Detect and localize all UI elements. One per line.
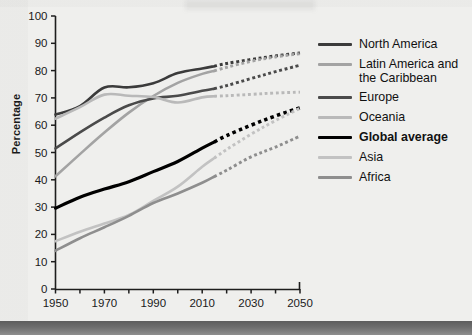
series-asia <box>56 108 301 241</box>
legend-swatch-line-icon <box>318 169 352 185</box>
legend-label: Oceania <box>359 109 405 124</box>
svg-text:100: 100 <box>28 10 47 22</box>
svg-text:2050: 2050 <box>287 297 313 309</box>
legend-swatch-line-icon <box>318 129 352 145</box>
svg-text:1990: 1990 <box>141 297 167 309</box>
legend-label: Asia <box>359 149 383 164</box>
legend-label: Latin America and the Caribbean <box>359 56 468 85</box>
svg-text:50: 50 <box>35 147 48 159</box>
svg-text:1950: 1950 <box>43 297 69 309</box>
svg-text:2030: 2030 <box>238 297 264 309</box>
legend-swatch-line-icon <box>318 149 352 165</box>
axis-lines <box>55 16 300 290</box>
svg-text:2010: 2010 <box>189 297 215 309</box>
legend-item[interactable]: Oceania <box>318 109 468 125</box>
legend-item[interactable]: Africa <box>318 169 468 185</box>
data-series-layer <box>56 53 301 251</box>
legend-item[interactable]: Asia <box>318 149 468 165</box>
legend-item[interactable]: North America <box>318 36 468 52</box>
svg-text:70: 70 <box>35 92 48 104</box>
legend-item[interactable]: Latin America and the Caribbean <box>318 56 468 85</box>
legend-label: Europe <box>359 89 399 104</box>
chart-figure: Percentage 0102030405060708090100 195019… <box>0 0 472 335</box>
page-edge-band <box>0 321 472 335</box>
legend-swatch-line-icon <box>318 109 352 125</box>
svg-text:60: 60 <box>35 119 48 131</box>
legend-swatch-line-icon <box>318 56 352 72</box>
legend-item[interactable]: Global average <box>318 129 468 145</box>
svg-text:30: 30 <box>35 201 48 213</box>
series-europe <box>56 65 301 148</box>
svg-text:40: 40 <box>35 174 48 186</box>
legend-label: Global average <box>359 129 448 144</box>
legend-swatch-line-icon <box>318 89 352 105</box>
svg-text:10: 10 <box>35 256 48 268</box>
legend-label: Africa <box>359 169 391 184</box>
svg-text:80: 80 <box>35 65 48 77</box>
svg-text:1970: 1970 <box>92 297 118 309</box>
svg-text:20: 20 <box>35 228 48 240</box>
chart-legend: North AmericaLatin America and the Carib… <box>318 36 468 189</box>
legend-swatch-line-icon <box>318 36 352 52</box>
legend-item[interactable]: Europe <box>318 89 468 105</box>
legend-label: North America <box>359 36 438 51</box>
axis-ticks <box>51 16 300 294</box>
svg-text:90: 90 <box>35 37 48 49</box>
svg-text:0: 0 <box>41 283 47 295</box>
y-tick-labels: 0102030405060708090100 <box>28 10 47 295</box>
x-tick-labels: 195019701990201020302050 <box>43 297 313 309</box>
